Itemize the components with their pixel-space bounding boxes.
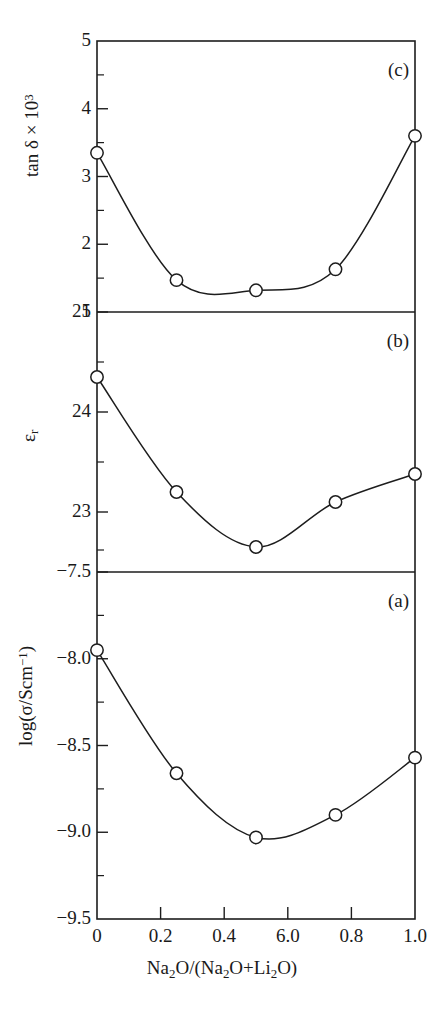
x-axis-label: Na2O/(Na2O+Li2O): [0, 957, 444, 982]
y-tick-label: 3: [0, 166, 91, 185]
y-tick-label: 2: [0, 233, 91, 252]
y-tick-label: −7.5: [0, 561, 91, 580]
y-tick-label: −8.5: [0, 735, 91, 754]
y-tick-label: 5: [0, 30, 91, 49]
plot-frames: [97, 41, 415, 919]
y-tick-label: 4: [0, 98, 91, 117]
panel-tag-c: (c): [369, 59, 409, 81]
x-tick-label: 1.0: [375, 925, 444, 947]
plot-curves: [97, 136, 415, 839]
y-tick-label: −8.0: [0, 648, 91, 667]
plot-ticks: [97, 75, 351, 919]
y-tick-label: 24: [0, 401, 91, 420]
y-tick-label: 23: [0, 501, 91, 520]
y-tick-label: 25: [0, 301, 91, 320]
plot-markers: [91, 130, 421, 844]
y-tick-label: −9.0: [0, 821, 91, 840]
panel-tag-b: (b): [369, 330, 409, 352]
figure-three-panel-plot: (c) tan δ × 103 (b) εr (a) log(σ/Scm−1) …: [0, 0, 444, 1021]
panel-tag-a: (a): [369, 590, 409, 612]
